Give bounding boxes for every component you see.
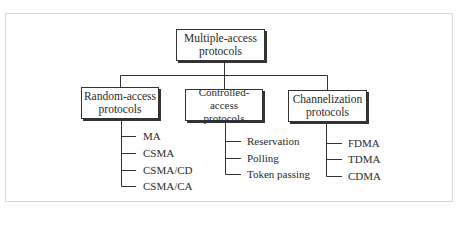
channelization-node: Channelization protocols — [288, 90, 367, 122]
leaf-ma: MA — [143, 130, 161, 142]
leaf-polling: Polling — [247, 152, 279, 164]
leaf-tdma: TDMA — [348, 153, 380, 165]
leaf-csma: CSMA — [143, 147, 174, 159]
random-access-node: Random-access protocols — [81, 87, 159, 119]
controlled-access-label-line2: protocols — [204, 112, 245, 125]
leaf-csma-ca: CSMA/CA — [143, 180, 193, 192]
controlled-access-label-line1: Controlled-access — [186, 86, 262, 112]
leaf-cdma: CDMA — [348, 170, 381, 182]
channelization-label-line2: protocols — [306, 106, 349, 119]
root-label-line1: Multiple-access — [184, 32, 257, 45]
root-label-line2: protocols — [199, 45, 242, 58]
leaf-csma-cd: CSMA/CD — [143, 164, 193, 176]
root-node: Multiple-access protocols — [176, 29, 265, 61]
channelization-label-line1: Channelization — [293, 93, 363, 106]
random-access-label-line2: protocols — [99, 103, 142, 116]
leaf-fdma: FDMA — [348, 137, 380, 149]
leaf-reservation: Reservation — [247, 135, 300, 147]
random-access-label-line1: Random-access — [84, 90, 156, 103]
controlled-access-node: Controlled-access protocols — [185, 89, 263, 121]
leaf-token-passing: Token passing — [247, 168, 310, 180]
